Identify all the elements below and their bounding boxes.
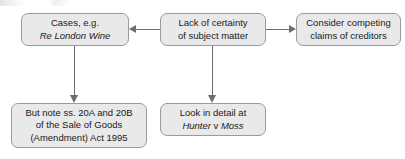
node-hunter-line-1: Look in detail at — [180, 107, 247, 120]
node-lack-line-1: Lack of certainty — [178, 17, 247, 30]
node-statute-line-2: of the Sale of Goods — [36, 119, 123, 132]
arrow-left-icon — [129, 25, 136, 33]
connector-lack-to-cases-line — [136, 29, 160, 30]
flowchart-diagram: Cases, e.g. Re London Wine Lack of certa… — [0, 0, 405, 159]
case-name-hunter: Hunter — [182, 120, 211, 131]
connector-lack-to-creditors-line — [266, 29, 289, 30]
node-creditors-line-1: Consider competing — [306, 17, 391, 30]
case-versus: v — [211, 120, 221, 131]
node-hunter-v-moss: Look in detail at Hunter v Moss — [160, 103, 266, 136]
arrow-right-icon — [289, 25, 296, 33]
arrow-down-icon — [70, 95, 78, 103]
arrow-down-icon — [208, 95, 216, 103]
node-hunter-line-2: Hunter v Moss — [182, 120, 243, 133]
node-cases-line-2: Re London Wine — [40, 30, 111, 43]
case-name-moss: Moss — [221, 120, 244, 131]
node-lack-of-certainty: Lack of certainty of subject matter — [160, 13, 266, 46]
node-lack-line-2: of subject matter — [178, 30, 248, 43]
node-cases: Cases, e.g. Re London Wine — [21, 13, 129, 46]
node-sale-of-goods-statute: But note ss. 20A and 20B of the Sale of … — [11, 103, 147, 148]
node-consider-creditors: Consider competing claims of creditors — [296, 13, 401, 46]
connector-cases-to-statute-line — [74, 46, 75, 95]
node-statute-line-1: But note ss. 20A and 20B — [25, 107, 132, 120]
connector-lack-to-hunter-line — [212, 46, 213, 95]
node-cases-line-1: Cases, e.g. — [51, 17, 99, 30]
scan-artifact — [0, 0, 405, 6]
node-statute-line-3: (Amendment) Act 1995 — [30, 132, 127, 145]
node-creditors-line-2: claims of creditors — [310, 30, 387, 43]
